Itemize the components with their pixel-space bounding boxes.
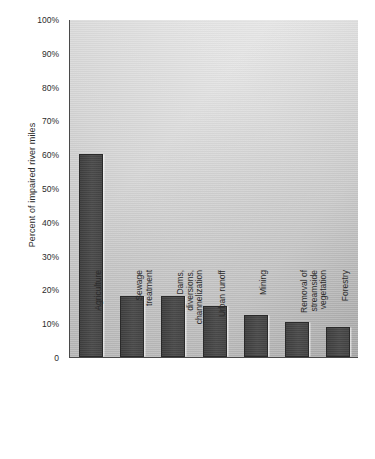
y-axis-tick-label: 30% <box>26 253 59 261</box>
y-axis-tick-label: 50% <box>26 185 59 193</box>
x-axis-tick-label: Mining <box>259 270 269 366</box>
y-axis-tick-label: 60% <box>26 151 59 159</box>
y-axis-tick-label: 90% <box>26 50 59 58</box>
x-axis-tick-labels: AgricultureSewage treatmentDams, diversi… <box>69 358 358 459</box>
y-axis-tick-label: 70% <box>26 117 59 125</box>
y-axis-tick-label: 0 <box>26 354 59 362</box>
x-axis-tick-label: Agriculture <box>94 270 104 366</box>
y-axis-tick-label: 10% <box>26 320 59 328</box>
x-axis-tick-label: Dams, diversions, channelization <box>176 270 205 366</box>
y-axis-tick-label: 20% <box>26 286 59 294</box>
x-axis-tick-label: Forestry <box>341 270 351 366</box>
x-axis-tick-label: Sewage treatment <box>135 270 154 366</box>
y-axis-tick-label: 100% <box>26 16 59 24</box>
x-axis-tick-label: Removal of streamside vegetation <box>300 270 329 366</box>
y-axis-tick-label: 80% <box>26 84 59 92</box>
x-axis-tick-label: Urban runoff <box>218 270 228 366</box>
bar-chart-figure: Percent of impaired river miles 100%90%8… <box>0 0 375 459</box>
y-axis-tick-label: 40% <box>26 219 59 227</box>
y-axis-tick-labels: 100%90%80%70%60%50%40%30%20%10%0 <box>26 20 59 358</box>
